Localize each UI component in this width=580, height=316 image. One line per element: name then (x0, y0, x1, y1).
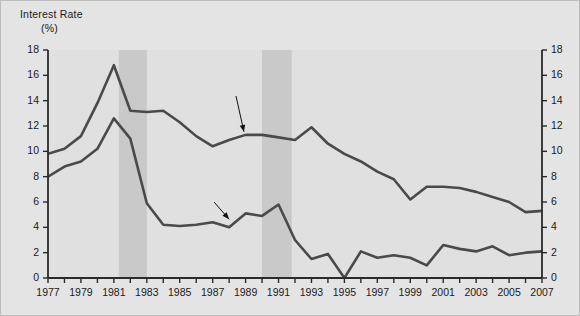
y-tick-label-right-10: 10 (551, 144, 571, 156)
x-tick-label-2005: 2005 (492, 286, 526, 298)
y-tick-label-left-8: 8 (19, 170, 39, 182)
axis-lines-group (48, 50, 542, 278)
interest-rates-annotation (236, 96, 245, 132)
x-tick-label-2001: 2001 (426, 286, 460, 298)
x-tick-label-1981: 1981 (97, 286, 131, 298)
y-tick-label-right-6: 6 (551, 195, 571, 207)
x-tick-label-2003: 2003 (459, 286, 493, 298)
tick-marks-group (43, 50, 547, 283)
y-tick-label-left-10: 10 (19, 144, 39, 156)
x-tick-label-1985: 1985 (163, 286, 197, 298)
inflation-annotation (214, 202, 229, 219)
y-tick-label-right-16: 16 (551, 68, 571, 80)
x-tick-label-1999: 1999 (393, 286, 427, 298)
y-tick-label-left-18: 18 (19, 43, 39, 55)
y-tick-label-right-4: 4 (551, 220, 571, 232)
y-tick-label-left-16: 16 (19, 68, 39, 80)
x-tick-label-1983: 1983 (130, 286, 164, 298)
y-tick-label-left-14: 14 (19, 94, 39, 106)
x-tick-label-1995: 1995 (327, 286, 361, 298)
annotation-arrows-group (214, 96, 245, 219)
x-tick-label-1991: 1991 (262, 286, 296, 298)
y-tick-label-right-2: 2 (551, 246, 571, 258)
x-tick-label-2007: 2007 (525, 286, 559, 298)
axes-overlay (0, 0, 580, 316)
x-tick-label-1979: 1979 (64, 286, 98, 298)
y-tick-label-left-12: 12 (19, 119, 39, 131)
y-tick-label-right-0: 0 (551, 271, 571, 283)
y-tick-label-left-2: 2 (19, 246, 39, 258)
x-tick-label-1997: 1997 (360, 286, 394, 298)
y-tick-label-left-4: 4 (19, 220, 39, 232)
x-tick-label-1977: 1977 (31, 286, 65, 298)
x-tick-label-1987: 1987 (196, 286, 230, 298)
y-tick-label-right-12: 12 (551, 119, 571, 131)
x-tick-label-1993: 1993 (294, 286, 328, 298)
y-tick-label-right-8: 8 (551, 170, 571, 182)
y-tick-label-left-6: 6 (19, 195, 39, 207)
chart-figure: Interest Rate (%) Interest Rates Inflati… (0, 0, 580, 316)
y-tick-label-left-0: 0 (19, 271, 39, 283)
y-tick-label-right-18: 18 (551, 43, 571, 55)
x-tick-label-1989: 1989 (229, 286, 263, 298)
y-tick-label-right-14: 14 (551, 94, 571, 106)
